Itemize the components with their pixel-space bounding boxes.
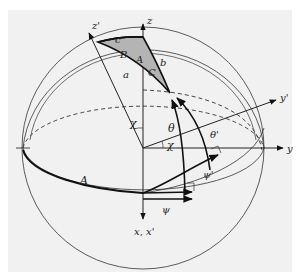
label-side-a: a	[123, 69, 129, 80]
label-angle-A: A	[135, 54, 143, 65]
label-x-xprime: x, x'	[134, 226, 154, 237]
label-theta: θ	[168, 122, 175, 135]
label-y: y	[286, 143, 293, 154]
label-z-prime: z'	[91, 20, 100, 31]
label-chi-lower: χ	[166, 139, 175, 152]
label-side-c: c	[115, 34, 121, 45]
theta-arc	[172, 100, 185, 193]
label-theta-prime: θ'	[210, 129, 219, 140]
psi-tangent	[143, 192, 192, 193]
label-angle-B: B	[119, 49, 127, 60]
label-psi: ψ	[162, 204, 170, 215]
sphere-diagram: z z' y y' x, x' c b a B A C χ χ θ θ' ψ' …	[0, 0, 306, 277]
label-psi-prime: ψ'	[203, 169, 214, 180]
axes	[89, 24, 283, 219]
label-z: z	[146, 15, 153, 26]
label-side-b: b	[160, 57, 166, 68]
label-arc-A: A	[79, 174, 88, 187]
label-angle-C: C	[148, 67, 156, 78]
label-chi-upper: χ	[129, 117, 138, 130]
y-prime-axis	[143, 100, 276, 148]
label-y-prime: y'	[279, 92, 288, 103]
